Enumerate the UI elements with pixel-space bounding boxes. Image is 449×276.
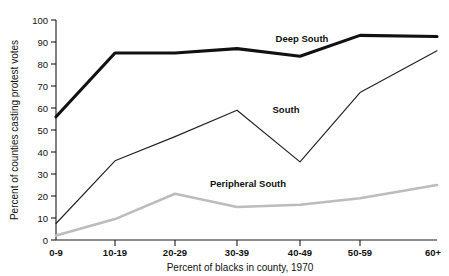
- y-tick-label-10: 10: [37, 213, 48, 224]
- y-axis-title: Percent of counties casting protest vote…: [9, 40, 20, 220]
- x-axis-title: Percent of blacks in county, 1970: [167, 262, 314, 273]
- series-label-south: South: [273, 104, 300, 115]
- x-tick-label-40-49: 40-49: [288, 247, 312, 258]
- x-axis-ticks: [115, 240, 360, 246]
- line-chart-plot: Percent of counties casting protest vote…: [0, 0, 449, 276]
- series-label-deep-south: Deep South: [276, 33, 329, 44]
- y-tick-label-100: 100: [32, 15, 48, 26]
- x-tick-label-30-39: 30-39: [225, 247, 249, 258]
- series-line-south: [56, 51, 437, 224]
- y-tick-label-90: 90: [37, 37, 48, 48]
- series-label-peripheral-south: Peripheral South: [210, 178, 286, 189]
- x-tick-label-60plus: 60+: [425, 247, 442, 258]
- y-tick-label-0: 0: [43, 235, 48, 246]
- x-tick-label-0-9: 0-9: [49, 247, 63, 258]
- x-axis-tick-labels: 0-9 10-19 20-29 30-39 40-49 50-59 60+: [49, 247, 441, 258]
- chart-container: Percent of counties casting protest vote…: [0, 0, 449, 276]
- x-tick-label-10-19: 10-19: [103, 247, 127, 258]
- x-tick-label-50-59: 50-59: [348, 247, 372, 258]
- y-tick-label-40: 40: [37, 147, 48, 158]
- series-line-peripheral-south: [56, 185, 437, 236]
- y-axis-ticks: [51, 20, 56, 240]
- y-tick-label-50: 50: [37, 125, 48, 136]
- y-tick-label-80: 80: [37, 59, 48, 70]
- y-tick-label-60: 60: [37, 103, 48, 114]
- y-tick-label-30: 30: [37, 169, 48, 180]
- series-line-deep-south: [56, 35, 437, 116]
- y-tick-label-70: 70: [37, 81, 48, 92]
- x-tick-label-20-29: 20-29: [163, 247, 187, 258]
- y-tick-label-20: 20: [37, 191, 48, 202]
- y-axis-tick-labels: 100 90 80 70 60 50 40 30 20 10 0: [32, 15, 48, 246]
